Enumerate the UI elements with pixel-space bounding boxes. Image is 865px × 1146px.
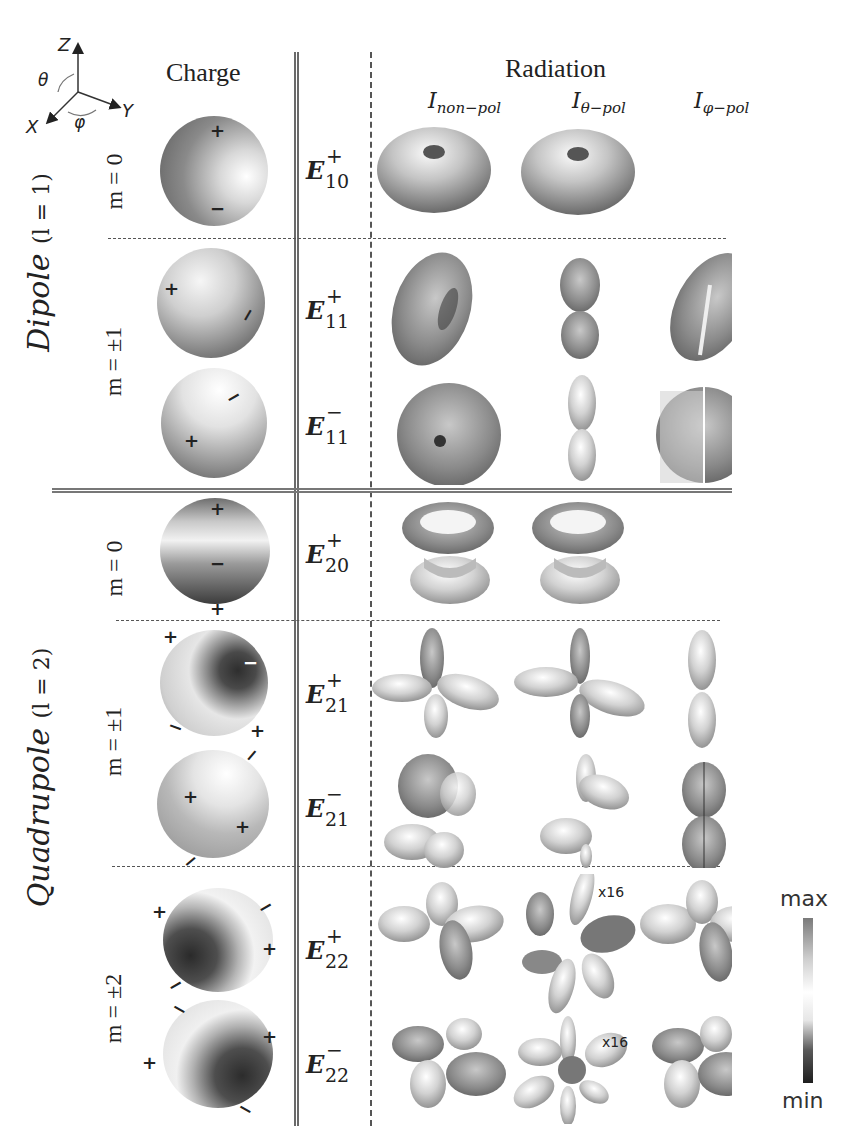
clover-e22p xyxy=(378,882,507,982)
z-axis-label: Z xyxy=(58,34,70,55)
radiation-header: Radiation xyxy=(505,54,606,84)
dipole-m0-label: m = 0 xyxy=(101,142,128,222)
two-lobe-e21p-phi xyxy=(688,630,716,748)
dipole-group-label: Dipole (l = 1) xyxy=(21,163,56,363)
phi-label: φ xyxy=(74,112,85,132)
two-lobe-e11p xyxy=(560,258,600,359)
dipole-m-divider xyxy=(108,238,726,239)
split-donut-e11p xyxy=(653,245,732,375)
dipole-quadrupole-divider xyxy=(52,488,732,493)
quad-m0-divider xyxy=(116,620,720,621)
mode-label-e22p: E+22 xyxy=(306,936,324,965)
four-lobe-e21p-theta xyxy=(514,628,649,738)
col-header-phi-pol: Iφ−pol xyxy=(694,88,749,117)
col-header-theta-pol: Iθ−pol xyxy=(572,88,626,117)
mode-label-e21m: E−21 xyxy=(306,794,324,823)
split-donut-e11m xyxy=(656,387,732,483)
six-lobe-e22m xyxy=(508,1016,633,1124)
plus-mark: + xyxy=(262,1028,277,1046)
radiation-rows-e11 xyxy=(372,245,732,485)
donut-non-pol xyxy=(377,127,491,213)
two-lobe-e21m-phi xyxy=(682,762,726,868)
radiation-row-e10 xyxy=(372,120,732,230)
donut-theta-pol xyxy=(521,129,635,215)
scale-annotation-e22m: x16 xyxy=(602,1034,628,1050)
plus-mark: + xyxy=(163,628,178,646)
minus-mark: − xyxy=(165,716,185,738)
four-lobe-e21p xyxy=(372,628,503,738)
plus-mark: + xyxy=(184,432,199,450)
charge-header: Charge xyxy=(166,58,241,88)
colorbar-max-label: max xyxy=(780,886,828,911)
clover-e22m-phi xyxy=(652,1016,732,1108)
four-lobe-e21m-theta xyxy=(540,754,634,868)
plus-mark: + xyxy=(152,903,167,921)
four-lobe-e21m xyxy=(384,754,476,868)
y-axis-label: Y xyxy=(122,100,133,121)
plus-mark: + xyxy=(235,818,250,836)
two-lobe-e11m xyxy=(568,375,596,481)
quad-m1-label: m = ±1 xyxy=(100,697,127,787)
radiation-rows-e21 xyxy=(372,628,732,868)
charge-radiation-divider xyxy=(294,52,299,1126)
radiation-row-e20 xyxy=(372,498,732,608)
mode-label-e21p: E+21 xyxy=(306,680,324,709)
plus-mark: + xyxy=(210,122,225,140)
mode-label-e11p: E+11 xyxy=(306,296,324,325)
double-cone-theta-pol xyxy=(532,502,624,604)
plus-mark: + xyxy=(183,788,198,806)
tilted-donut-e11m xyxy=(397,383,501,485)
coordinate-axes: Z θ Y X φ xyxy=(30,36,140,136)
dipole-m1-label: m = ±1 xyxy=(100,317,127,407)
minus-mark: − xyxy=(210,555,225,573)
clover-e22p-phi xyxy=(640,880,732,984)
clover-e22m xyxy=(392,1018,506,1108)
mode-label-e11m: E−11 xyxy=(306,412,324,441)
radiation-rows-e22 xyxy=(372,874,732,1124)
plus-mark: + xyxy=(250,722,265,740)
colorbar xyxy=(803,918,813,1083)
col-header-non-pol: Inon−pol xyxy=(428,88,501,117)
scale-annotation-e22p: x16 xyxy=(598,884,624,900)
charge-sphere-e11m xyxy=(161,368,267,478)
tilted-donut-e11p xyxy=(378,245,486,376)
plus-mark: + xyxy=(262,940,277,958)
plus-mark: + xyxy=(164,280,179,298)
plus-mark: + xyxy=(142,1054,157,1072)
plus-mark: + xyxy=(210,500,225,518)
charge-sphere-e11p xyxy=(157,248,265,358)
theta-label: θ xyxy=(38,70,48,90)
plus-mark: + xyxy=(210,600,225,618)
mode-label-e22m: E−22 xyxy=(306,1050,324,1079)
minus-mark: − xyxy=(210,200,225,218)
quadrupole-group-label: Quadrupole (l = 2) xyxy=(21,648,56,908)
mode-label-e10: E+10 xyxy=(306,156,324,185)
x-axis-label: X xyxy=(26,116,38,137)
quad-m2-label: m = ±2 xyxy=(100,964,127,1054)
colorbar-min-label: min xyxy=(782,1088,824,1113)
minus-mark: − xyxy=(243,654,258,672)
double-cone-non-pol xyxy=(402,502,494,604)
quad-m0-label: m = 0 xyxy=(101,529,128,609)
mode-label-e20: E+20 xyxy=(306,540,324,569)
